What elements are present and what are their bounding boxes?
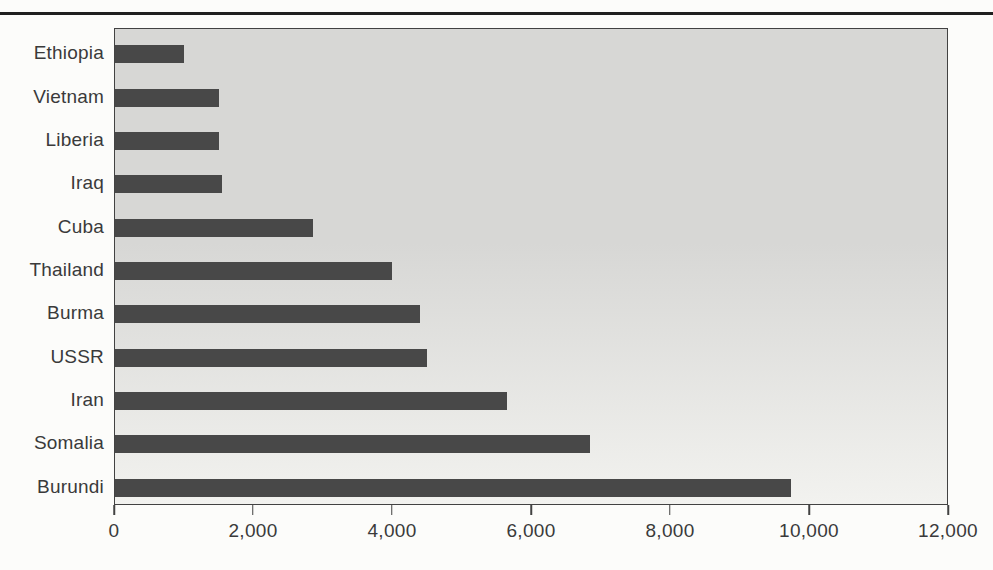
x-tick-6000 xyxy=(530,505,532,515)
page: EthiopiaVietnamLiberiaIraqCubaThailandBu… xyxy=(0,0,993,570)
bar-iraq xyxy=(115,175,222,193)
x-tick-label-12000: 12,000 xyxy=(918,520,978,542)
category-label-somalia: Somalia xyxy=(0,432,104,454)
category-label-ethiopia: Ethiopia xyxy=(0,42,104,64)
x-tick-label-8000: 8,000 xyxy=(645,520,694,542)
x-axis: 02,0004,0006,0008,00010,00012,000 xyxy=(114,505,948,555)
category-label-thailand: Thailand xyxy=(0,259,104,281)
bar-iran xyxy=(115,392,507,410)
x-tick-label-0: 0 xyxy=(109,520,120,542)
category-label-cuba: Cuba xyxy=(0,216,104,238)
category-label-burma: Burma xyxy=(0,302,104,324)
bar-burma xyxy=(115,305,420,323)
x-tick-0 xyxy=(113,505,115,515)
category-label-vietnam: Vietnam xyxy=(0,86,104,108)
x-tick-4000 xyxy=(391,505,393,515)
bar-burundi xyxy=(115,479,791,497)
x-tick-12000 xyxy=(947,505,949,515)
bar-vietnam xyxy=(115,89,219,107)
x-tick-label-2000: 2,000 xyxy=(228,520,277,542)
bar-liberia xyxy=(115,132,219,150)
x-tick-label-10000: 10,000 xyxy=(779,520,839,542)
x-tick-8000 xyxy=(669,505,671,515)
category-label-ussr: USSR xyxy=(0,346,104,368)
x-tick-label-4000: 4,000 xyxy=(367,520,416,542)
category-label-iraq: Iraq xyxy=(0,172,104,194)
x-tick-label-6000: 6,000 xyxy=(506,520,555,542)
bar-ussr xyxy=(115,349,427,367)
bar-cuba xyxy=(115,219,313,237)
y-axis-labels: EthiopiaVietnamLiberiaIraqCubaThailandBu… xyxy=(0,28,104,505)
bar-somalia xyxy=(115,435,590,453)
category-label-burundi: Burundi xyxy=(0,476,104,498)
bar-thailand xyxy=(115,262,392,280)
bar-ethiopia xyxy=(115,45,184,63)
plot-area xyxy=(114,28,948,505)
category-label-iran: Iran xyxy=(0,389,104,411)
horizontal-bar-chart: EthiopiaVietnamLiberiaIraqCubaThailandBu… xyxy=(0,0,993,570)
x-tick-2000 xyxy=(252,505,254,515)
x-tick-10000 xyxy=(808,505,810,515)
category-label-liberia: Liberia xyxy=(0,129,104,151)
